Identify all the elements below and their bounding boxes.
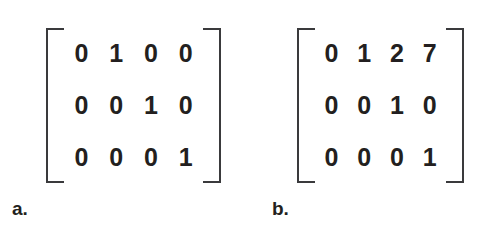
matrix-cell: 1 — [423, 145, 437, 170]
left-square-bracket-icon — [297, 28, 315, 183]
matrix-a: 0 1 0 0 0 0 1 0 0 0 0 1 — [46, 28, 221, 183]
matrix-cell: 0 — [357, 145, 371, 170]
matrix-row: 0 0 0 1 — [64, 145, 203, 170]
matrix-cell: 0 — [390, 145, 404, 170]
matrix-cell: 0 — [324, 41, 338, 66]
matrix-cell: 0 — [109, 145, 123, 170]
matrix-cell: 0 — [357, 93, 371, 118]
right-square-bracket-icon — [203, 28, 221, 183]
matrix-cell: 0 — [144, 41, 158, 66]
matrix-row: 0 0 1 0 — [64, 93, 203, 118]
matrix-cell: 0 — [74, 145, 88, 170]
matrix-cell: 0 — [324, 145, 338, 170]
matrix-cell: 0 — [179, 41, 193, 66]
matrix-row: 0 0 0 1 — [315, 145, 446, 170]
matrix-cell: 0 — [179, 93, 193, 118]
matrix-cell: 0 — [324, 93, 338, 118]
matrix-cell: 1 — [357, 41, 371, 66]
left-square-bracket-icon — [46, 28, 64, 183]
matrix-cell: 1 — [390, 93, 404, 118]
right-square-bracket-icon — [446, 28, 464, 183]
figure-canvas: 0 1 0 0 0 0 1 0 0 0 0 1 a — [0, 0, 501, 249]
matrix-cell: 1 — [109, 41, 123, 66]
matrix-cell: 0 — [74, 41, 88, 66]
matrix-cell: 7 — [423, 41, 437, 66]
matrix-row: 0 0 1 0 — [315, 93, 446, 118]
matrix-cell: 1 — [179, 145, 193, 170]
matrix-b: 0 1 2 7 0 0 1 0 0 0 0 1 — [297, 28, 464, 183]
figure-label-b: b. — [272, 199, 289, 218]
matrix-cell: 0 — [74, 93, 88, 118]
matrix-cell: 0 — [109, 93, 123, 118]
matrix-cell: 0 — [144, 145, 158, 170]
matrix-figure-b: 0 1 2 7 0 0 1 0 0 0 0 1 b — [250, 0, 501, 249]
matrix-cell: 0 — [423, 93, 437, 118]
matrix-row: 0 1 0 0 — [64, 41, 203, 66]
matrix-figure-a: 0 1 0 0 0 0 1 0 0 0 0 1 a — [0, 0, 250, 249]
matrix-b-grid: 0 1 2 7 0 0 1 0 0 0 0 1 — [315, 28, 446, 183]
matrix-cell: 1 — [144, 93, 158, 118]
figure-label-a: a. — [12, 199, 28, 218]
matrix-row: 0 1 2 7 — [315, 41, 446, 66]
matrix-a-grid: 0 1 0 0 0 0 1 0 0 0 0 1 — [64, 28, 203, 183]
matrix-cell: 2 — [390, 41, 404, 66]
